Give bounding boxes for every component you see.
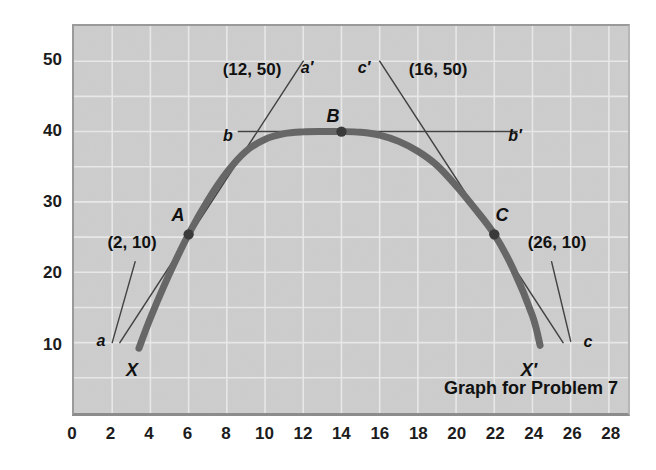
x-tick-label-14: 14 (332, 424, 351, 444)
x-tick-label-0: 0 (67, 424, 76, 444)
label-c: c (584, 333, 593, 351)
x-tick-label-4: 4 (144, 424, 153, 444)
label-coord-26-10: (26, 10) (528, 233, 587, 253)
y-tick-label-40: 40 (43, 121, 62, 141)
y-tick-label-50: 50 (43, 50, 62, 70)
label-coord-16-50: (16, 50) (409, 60, 468, 80)
x-tick-label-10: 10 (255, 424, 274, 444)
y-tick-label-10: 10 (43, 335, 62, 355)
label-point-C: C (496, 205, 509, 226)
plot-canvas (74, 26, 628, 413)
x-tick-label-18: 18 (409, 424, 428, 444)
x-tick-label-24: 24 (524, 424, 543, 444)
plot-area: (12, 50) a′ c′ (16, 50) B b b′ A C (2, 1… (72, 24, 630, 416)
graph-figure: (12, 50) a′ c′ (16, 50) B b b′ A C (2, 1… (0, 0, 656, 470)
paper-grain (74, 26, 628, 413)
x-tick-label-20: 20 (447, 424, 466, 444)
label-a-prime: a′ (301, 59, 314, 77)
x-tick-label-2: 2 (106, 424, 115, 444)
x-tick-label-16: 16 (370, 424, 389, 444)
x-tick-label-8: 8 (221, 424, 230, 444)
x-tick-label-12: 12 (293, 424, 312, 444)
label-a: a (97, 332, 106, 350)
x-tick-label-28: 28 (601, 424, 620, 444)
label-coord-2-10: (2, 10) (107, 233, 156, 253)
x-tick-label-26: 26 (563, 424, 582, 444)
y-tick-label-30: 30 (43, 192, 62, 212)
label-point-A: A (172, 205, 185, 226)
figure-caption: Graph for Problem 7 (444, 378, 618, 399)
x-tick-label-22: 22 (486, 424, 505, 444)
y-tick-label-20: 20 (43, 263, 62, 283)
x-tick-label-6: 6 (183, 424, 192, 444)
label-b-prime: b′ (508, 127, 522, 145)
label-point-B: B (327, 106, 340, 127)
label-coord-12-50: (12, 50) (223, 60, 282, 80)
label-curve-end-X: X (126, 360, 138, 381)
label-c-prime: c′ (358, 59, 371, 77)
label-b: b (223, 127, 233, 145)
